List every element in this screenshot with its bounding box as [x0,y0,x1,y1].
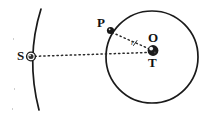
scan-speck [13,38,14,40]
diagram-svg [0,0,212,118]
scan-speck [12,108,13,110]
label-earth-t: T [148,56,157,69]
marker-point-p [107,27,114,34]
diagram-canvas: S P O T r [0,0,212,118]
scan-speck [14,88,15,90]
dotted-line-sun-to-earth [35,53,148,57]
label-sun: S [17,49,24,62]
marker-sun [27,52,36,61]
label-center-o: O [148,31,158,44]
label-radius-r: r [131,39,134,47]
label-point-p: P [97,16,105,29]
